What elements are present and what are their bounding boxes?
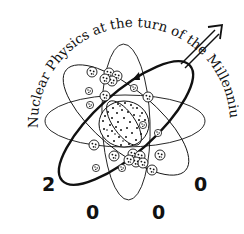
orbit-direction-arrow-icon [132, 72, 140, 80]
year-digits: 2 0 0 0 [42, 173, 207, 223]
year-digit-4: 0 [194, 173, 207, 195]
year-digit-1: 2 [42, 173, 55, 195]
nuclear-physics-logo: Nuclear Physics at the turn of the Mille… [0, 0, 244, 234]
year-digit-2: 0 [86, 201, 99, 223]
year-digit-3: 0 [152, 201, 165, 223]
